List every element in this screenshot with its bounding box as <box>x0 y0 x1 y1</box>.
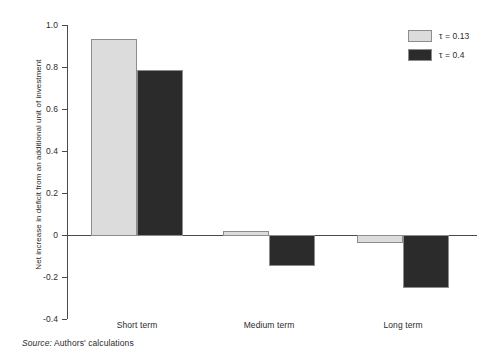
legend-item-tau-0.4: τ = 0.4 <box>408 47 469 62</box>
legend-item-tau-0.13: τ = 0.13 <box>408 28 469 43</box>
bar-chart-figure: Net increase in deficit from an addition… <box>0 0 494 363</box>
source-note: Source: Authors' calculations <box>22 338 134 348</box>
x-axis-label-medium-term: Medium term <box>219 320 319 330</box>
source-note-label: Source: <box>22 338 52 348</box>
y-tick-label-0.8: 0.8 <box>46 63 58 72</box>
y-tick-mark-0 <box>62 235 67 236</box>
y-tick-label-neg0.2: -0.2 <box>43 273 58 282</box>
bar-short-term-tau-0.13 <box>91 39 137 236</box>
y-tick-mark-0.8 <box>62 67 67 68</box>
y-tick-label-neg0.4: -0.4 <box>43 315 58 324</box>
y-axis-line <box>67 25 68 319</box>
plot-area: Net increase in deficit from an addition… <box>0 0 494 330</box>
y-tick-mark-neg0.4 <box>62 319 67 320</box>
y-tick-label-1.0: 1.0 <box>46 21 58 30</box>
legend: τ = 0.13 τ = 0.4 <box>408 28 469 66</box>
bar-short-term-tau-0.4 <box>137 70 183 236</box>
y-tick-label-0.2: 0.2 <box>46 189 58 198</box>
legend-swatch-light-icon <box>408 30 432 42</box>
y-tick-label-0.6: 0.6 <box>46 105 58 114</box>
x-axis-label-short-term: Short term <box>87 320 187 330</box>
y-tick-mark-neg0.2 <box>62 277 67 278</box>
legend-label-tau-0.4: τ = 0.4 <box>439 50 465 60</box>
y-tick-mark-0.2 <box>62 193 67 194</box>
bar-long-term-tau-0.4 <box>403 235 449 288</box>
y-tick-mark-0.6 <box>62 109 67 110</box>
y-tick-mark-0.4 <box>62 151 67 152</box>
legend-swatch-dark-icon <box>408 49 432 61</box>
y-tick-label-0.4: 0.4 <box>46 147 58 156</box>
y-tick-label-0: 0 <box>53 231 58 240</box>
legend-label-tau-0.13: τ = 0.13 <box>439 31 469 41</box>
bar-medium-term-tau-0.4 <box>269 235 315 266</box>
y-tick-mark-1.0 <box>62 25 67 26</box>
source-note-text: Authors' calculations <box>54 338 134 348</box>
bar-medium-term-tau-0.13 <box>223 231 269 236</box>
x-axis-label-long-term: Long term <box>353 320 453 330</box>
bar-long-term-tau-0.13 <box>357 235 403 243</box>
y-axis-title: Net increase in deficit from an addition… <box>34 35 43 295</box>
